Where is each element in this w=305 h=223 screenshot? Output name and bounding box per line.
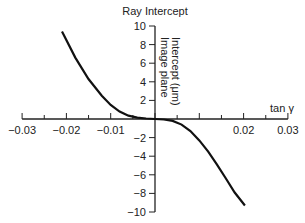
x-tick-label: −0.03 <box>8 124 36 136</box>
y-tick-label: −8 <box>133 187 146 199</box>
x-tick-label: 0.02 <box>233 124 254 136</box>
x-tick-label: −0.01 <box>97 124 125 136</box>
y-tick-label: 2 <box>140 94 146 106</box>
y-tick-label: −10 <box>127 206 146 218</box>
x-tick-label: 0.03 <box>277 124 298 136</box>
y-tick-label: 10 <box>134 20 146 32</box>
svg-text:Image plane: Image plane <box>159 37 171 98</box>
y-axis-label: Image planeIntercept (μm) <box>159 37 182 106</box>
y-tick-label: −4 <box>133 150 146 162</box>
y-tick-label: −2 <box>133 132 146 144</box>
y-tick-label: −6 <box>133 169 146 181</box>
x-tick-label: −0.02 <box>52 124 80 136</box>
chart-title: Ray Intercept <box>122 5 187 17</box>
y-tick-label: 8 <box>140 39 146 51</box>
x-axis-label: tan γ <box>270 102 294 114</box>
svg-text:Intercept (μm): Intercept (μm) <box>170 37 182 106</box>
chart: Ray Intercept tan γ −0.03−0.02−0.010.020… <box>0 0 305 223</box>
y-tick-label: 4 <box>140 76 146 88</box>
y-tick-label: 6 <box>140 57 146 69</box>
